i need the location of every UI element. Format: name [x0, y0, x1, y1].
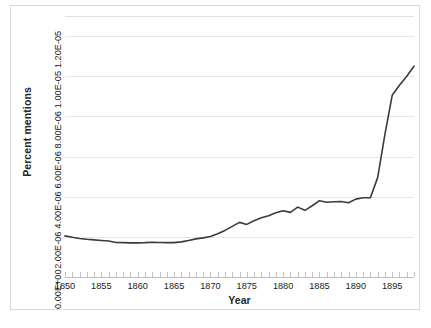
- x-minor-tick-1888: [341, 272, 342, 277]
- x-minor-tick-1858: [123, 272, 124, 277]
- x-minor-tick-1859: [130, 272, 131, 277]
- line-series: [65, 16, 414, 277]
- x-minor-tick-1881: [290, 272, 291, 277]
- x-minor-tick-1850: [65, 272, 66, 277]
- x-minor-tick-1870: [210, 272, 211, 277]
- x-tick-label-1865: 1865: [154, 280, 194, 292]
- x-tick-label-1880: 1880: [263, 280, 303, 292]
- x-minor-tick-1890: [356, 272, 357, 277]
- x-minor-tick-1880: [283, 272, 284, 277]
- x-minor-tick-1896: [399, 272, 400, 277]
- x-minor-tick-1864: [167, 272, 168, 277]
- x-minor-tick-1874: [240, 272, 241, 277]
- x-minor-tick-1882: [298, 272, 299, 277]
- x-minor-tick-1892: [370, 272, 371, 277]
- series-polyline: [65, 66, 414, 243]
- x-minor-tick-1862: [152, 272, 153, 277]
- x-minor-tick-1897: [407, 272, 408, 277]
- x-minor-tick-1871: [218, 272, 219, 277]
- x-minor-tick-1893: [378, 272, 379, 277]
- x-minor-tick-1878: [269, 272, 270, 277]
- x-minor-tick-1856: [109, 272, 110, 277]
- x-minor-tick-1861: [145, 272, 146, 277]
- y-axis-title: Percent mentions: [20, 42, 34, 222]
- x-minor-tick-1898: [414, 272, 415, 277]
- x-minor-tick-1872: [225, 272, 226, 277]
- x-minor-tick-1887: [334, 272, 335, 277]
- x-tick-label-1890: 1890: [336, 280, 376, 292]
- x-axis-title: Year: [65, 294, 414, 306]
- x-axis-line: [65, 277, 414, 278]
- x-minor-tick-1869: [203, 272, 204, 277]
- x-minor-tick-1886: [327, 272, 328, 277]
- x-minor-tick-1853: [87, 272, 88, 277]
- x-minor-tick-1854: [94, 272, 95, 277]
- x-minor-tick-1883: [305, 272, 306, 277]
- x-tick-label-1850: 1850: [45, 280, 85, 292]
- x-tick-label-1875: 1875: [227, 280, 267, 292]
- y-tick-label-6: 1.20E-05: [52, 4, 64, 68]
- x-minor-tick-1895: [392, 272, 393, 277]
- plot-area: [65, 16, 414, 277]
- x-tick-label-1895: 1895: [372, 280, 412, 292]
- x-tick-label-1870: 1870: [190, 280, 230, 292]
- x-tick-label-1885: 1885: [299, 280, 339, 292]
- x-minor-tick-1855: [101, 272, 102, 277]
- x-minor-tick-1867: [189, 272, 190, 277]
- x-minor-tick-1851: [72, 272, 73, 277]
- x-minor-tick-1894: [385, 272, 386, 277]
- x-minor-tick-1866: [181, 272, 182, 277]
- x-minor-tick-1875: [247, 272, 248, 277]
- x-minor-tick-1885: [319, 272, 320, 277]
- x-minor-tick-1876: [254, 272, 255, 277]
- chart-container: Percent mentions 0.00E+002.00E-064.00E-0…: [0, 0, 431, 328]
- x-minor-tick-1889: [349, 272, 350, 277]
- x-minor-tick-1865: [174, 272, 175, 277]
- x-minor-tick-1860: [138, 272, 139, 277]
- x-minor-tick-1873: [232, 272, 233, 277]
- x-minor-tick-1868: [196, 272, 197, 277]
- x-minor-tick-1884: [312, 272, 313, 277]
- x-minor-tick-1863: [160, 272, 161, 277]
- x-minor-tick-1852: [80, 272, 81, 277]
- x-minor-tick-1879: [276, 272, 277, 277]
- x-tick-label-1860: 1860: [118, 280, 158, 292]
- x-minor-tick-1857: [116, 272, 117, 277]
- x-tick-label-1855: 1855: [81, 280, 121, 292]
- x-minor-tick-1891: [363, 272, 364, 277]
- x-minor-tick-1877: [261, 272, 262, 277]
